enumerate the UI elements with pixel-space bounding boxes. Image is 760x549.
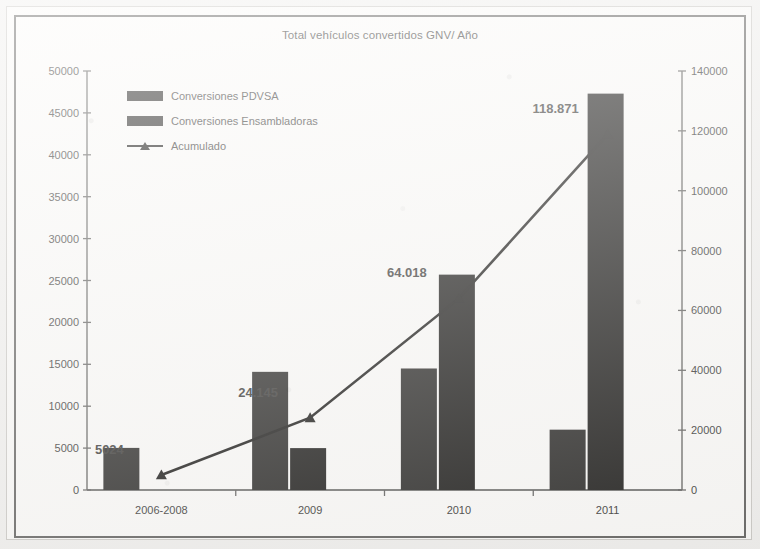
y-axis-left-tick-label: 0 xyxy=(73,485,79,496)
x-axis-tick-label-2009: 2009 xyxy=(298,504,322,516)
data-label-acumulado-1: 24.145 xyxy=(238,384,278,399)
y-axis-right-tick-label: 100000 xyxy=(691,185,728,196)
y-axis-left-tick-label: 15000 xyxy=(48,359,79,370)
bar-2011-s0 xyxy=(550,430,586,490)
y-axis-left-tick-label: 35000 xyxy=(48,191,79,202)
y-axis-left-tick-label: 50000 xyxy=(48,66,79,77)
x-axis-tick-label-2010: 2010 xyxy=(447,504,471,516)
y-axis-right-tick-label: 0 xyxy=(691,485,697,496)
x-axis-labels: 2006-2008200920102011 xyxy=(87,504,682,526)
chart-frame: Total vehículos convertidos GNV/ Año 050… xyxy=(14,15,746,538)
x-axis-tick-label-2011: 2011 xyxy=(596,504,620,516)
y-axis-left-tick-label: 5000 xyxy=(55,443,79,454)
y-axis-left-labels: 0500010000150002000025000300003500040000… xyxy=(16,71,79,490)
legend-label: Conversiones PDVSA xyxy=(171,90,279,102)
y-axis-left-tick-label: 25000 xyxy=(48,275,79,286)
y-axis-left-tick-label: 30000 xyxy=(48,233,79,244)
scanned-chart-page: Total vehículos convertidos GNV/ Año 050… xyxy=(0,0,760,549)
legend-item-0[interactable]: Conversiones PDVSA xyxy=(127,83,342,108)
y-axis-left-tick-label: 45000 xyxy=(48,107,79,118)
bar-2011-s1 xyxy=(588,94,624,490)
x-axis-tick-label-2006-2008: 2006-2008 xyxy=(135,504,188,516)
legend-item-1[interactable]: Conversiones Ensambladoras xyxy=(127,108,342,133)
bar-2009-s1 xyxy=(290,448,326,490)
y-axis-right-tick-label: 60000 xyxy=(691,305,722,316)
y-axis-left-tick-label: 40000 xyxy=(48,149,79,160)
y-axis-right-tick-label: 40000 xyxy=(691,365,722,376)
y-axis-right-tick-label: 120000 xyxy=(691,125,728,136)
legend-line-triangle-icon xyxy=(127,140,163,152)
y-axis-right-tick-label: 20000 xyxy=(691,425,722,436)
legend-swatch-icon xyxy=(127,116,163,126)
chart-legend: Conversiones PDVSAConversiones Ensamblad… xyxy=(127,83,342,158)
y-axis-right-tick-label: 140000 xyxy=(691,66,728,77)
chart-title: Total vehículos convertidos GNV/ Año xyxy=(16,29,744,41)
bar-2010-s1 xyxy=(439,275,475,490)
legend-label: Acumulado xyxy=(171,140,226,152)
y-axis-right-tick-label: 80000 xyxy=(691,245,722,256)
line-acumulado xyxy=(161,134,607,475)
y-axis-left-tick-label: 20000 xyxy=(48,317,79,328)
legend-item-2[interactable]: Acumulado xyxy=(127,133,342,158)
y-axis-right-labels: 020000400006000080000100000120000140000 xyxy=(691,71,755,490)
data-label-acumulado-3: 118.871 xyxy=(532,101,578,116)
y-axis-left-tick-label: 10000 xyxy=(48,401,79,412)
data-label-acumulado-2: 64.018 xyxy=(387,265,427,280)
data-label-acumulado-0: 5024 xyxy=(95,441,124,456)
bar-2010-s0 xyxy=(401,368,437,490)
legend-label: Conversiones Ensambladoras xyxy=(171,115,318,127)
legend-swatch-icon xyxy=(127,91,163,101)
